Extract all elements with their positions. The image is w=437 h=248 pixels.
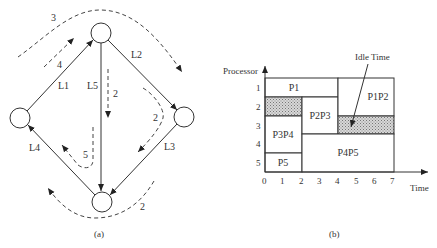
x-tick-2: 2 [299,176,304,186]
y-tick-5: 5 [256,158,261,168]
x-tick-1: 1 [280,176,285,186]
flow-5-label: 5 [83,149,88,160]
y-tick-3: 3 [256,121,261,131]
task-p1-label: P1 [289,82,300,93]
gantt-chart: P1 P3P4 P5 P2P3 P1P2 P4P5 Processor Time… [223,52,429,239]
flow-2-l2l3-label: 2 [153,112,158,123]
x-tick-5: 5 [354,176,359,186]
link-l4-label: L4 [29,142,40,153]
x-tick-3: 3 [317,176,322,186]
x-tick-6: 6 [372,176,377,186]
idle-block-2 [338,116,394,134]
node-left [10,108,30,128]
node-top [91,23,111,43]
task-p4p5-label: P4P5 [337,147,358,158]
y-tick-4: 4 [256,139,261,149]
node-bottom [92,192,112,212]
task-p3p4-label: P3P4 [272,129,293,140]
link-l5-label: L5 [87,80,98,91]
link-l4 [28,125,95,195]
link-l3-label: L3 [164,141,175,152]
flow-5 [62,127,93,168]
network-diagram: 3 4 2 2 5 2 L1 L2 L3 L4 L5 (a) [10,10,194,239]
x-tick-0: 0 [262,176,267,186]
idle-block-1 [265,97,302,116]
figure-canvas: 3 4 2 2 5 2 L1 L2 L3 L4 L5 (a) P1 P3P4 P… [0,0,437,248]
link-l1-label: L1 [58,80,69,91]
y-axis-label: Processor [223,66,258,76]
link-l2-label: L2 [131,49,142,60]
y-tick-2: 2 [256,102,261,112]
task-p5-label: P5 [278,157,289,168]
flow-2-bottom-label: 2 [140,201,145,212]
link-l3 [110,124,177,195]
flow-2-l5-label: 2 [113,88,118,99]
x-axis-label: Time [410,183,429,193]
caption-b: (b) [329,229,340,239]
x-tick-7: 7 [390,176,395,186]
y-tick-1: 1 [256,83,261,93]
flow-3-label: 3 [51,12,56,23]
idle-time-annotation: Idle Time [355,52,390,62]
caption-a: (a) [94,229,104,239]
flow-4-label: 4 [57,59,62,70]
node-right [174,107,194,127]
link-l1 [27,40,93,111]
task-p1 [265,78,338,97]
x-tick-4: 4 [335,176,340,186]
task-p2p3-label: P2P3 [309,110,330,121]
task-p1p2-label: P1P2 [367,91,388,102]
